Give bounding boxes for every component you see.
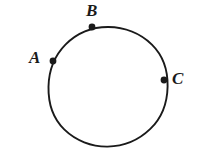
point-marker-c [161, 77, 168, 84]
point-label-b: B [86, 2, 97, 19]
point-marker-a [50, 58, 57, 65]
point-label-a: A [29, 49, 40, 66]
point-marker-b [89, 24, 96, 31]
point-label-c: C [172, 70, 183, 87]
circle-figure: A B C [0, 0, 202, 163]
circle-outline [48, 27, 167, 147]
